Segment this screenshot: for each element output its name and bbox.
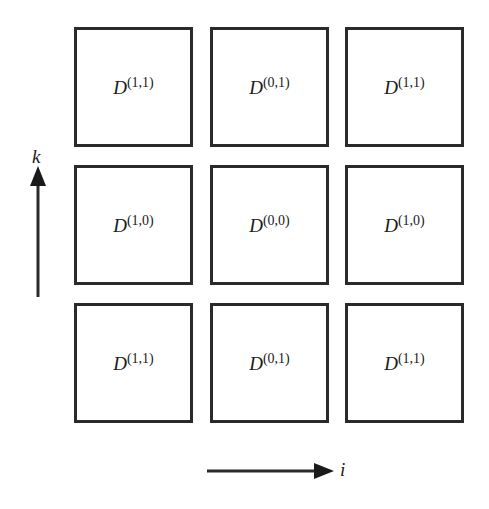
- i-axis-label: i: [340, 459, 345, 481]
- k-axis-arrow-icon: [30, 166, 46, 297]
- axes-arrows: [0, 0, 489, 509]
- i-axis-arrow-icon: [207, 463, 334, 479]
- k-axis-label: k: [32, 146, 40, 168]
